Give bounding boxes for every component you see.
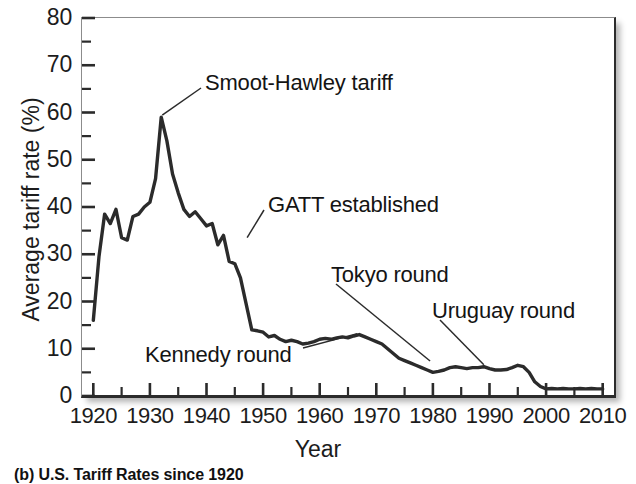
ytick-label-0: 0 <box>6 384 72 407</box>
annotation-smoot-hawley-tariff: Smoot-Hawley tariff <box>205 72 393 94</box>
xtick-label-2010: 2010 <box>567 405 636 427</box>
leader-smoot-hawley <box>162 88 201 115</box>
annotation-kennedy-round: Kennedy round <box>145 344 292 366</box>
y-axis-title: Average tariff rate (%) <box>20 60 43 360</box>
leader-gatt <box>247 210 264 238</box>
x-axis-title: Year <box>0 438 636 461</box>
annotation-uruguay-round: Uruguay round <box>432 300 575 322</box>
annotation-leader-lines <box>162 88 484 365</box>
annotation-tokyo-round: Tokyo round <box>331 264 449 286</box>
leader-tokyo <box>336 284 430 361</box>
x-axis-ticks <box>93 383 602 396</box>
leader-uruguay <box>440 320 484 365</box>
ytick-label-80: 80 <box>6 6 72 29</box>
figure-caption: (b) U.S. Tariff Rates since 1920 <box>14 466 243 484</box>
annotation-gatt-established: GATT established <box>268 194 439 216</box>
y-axis-ticks <box>82 18 95 396</box>
